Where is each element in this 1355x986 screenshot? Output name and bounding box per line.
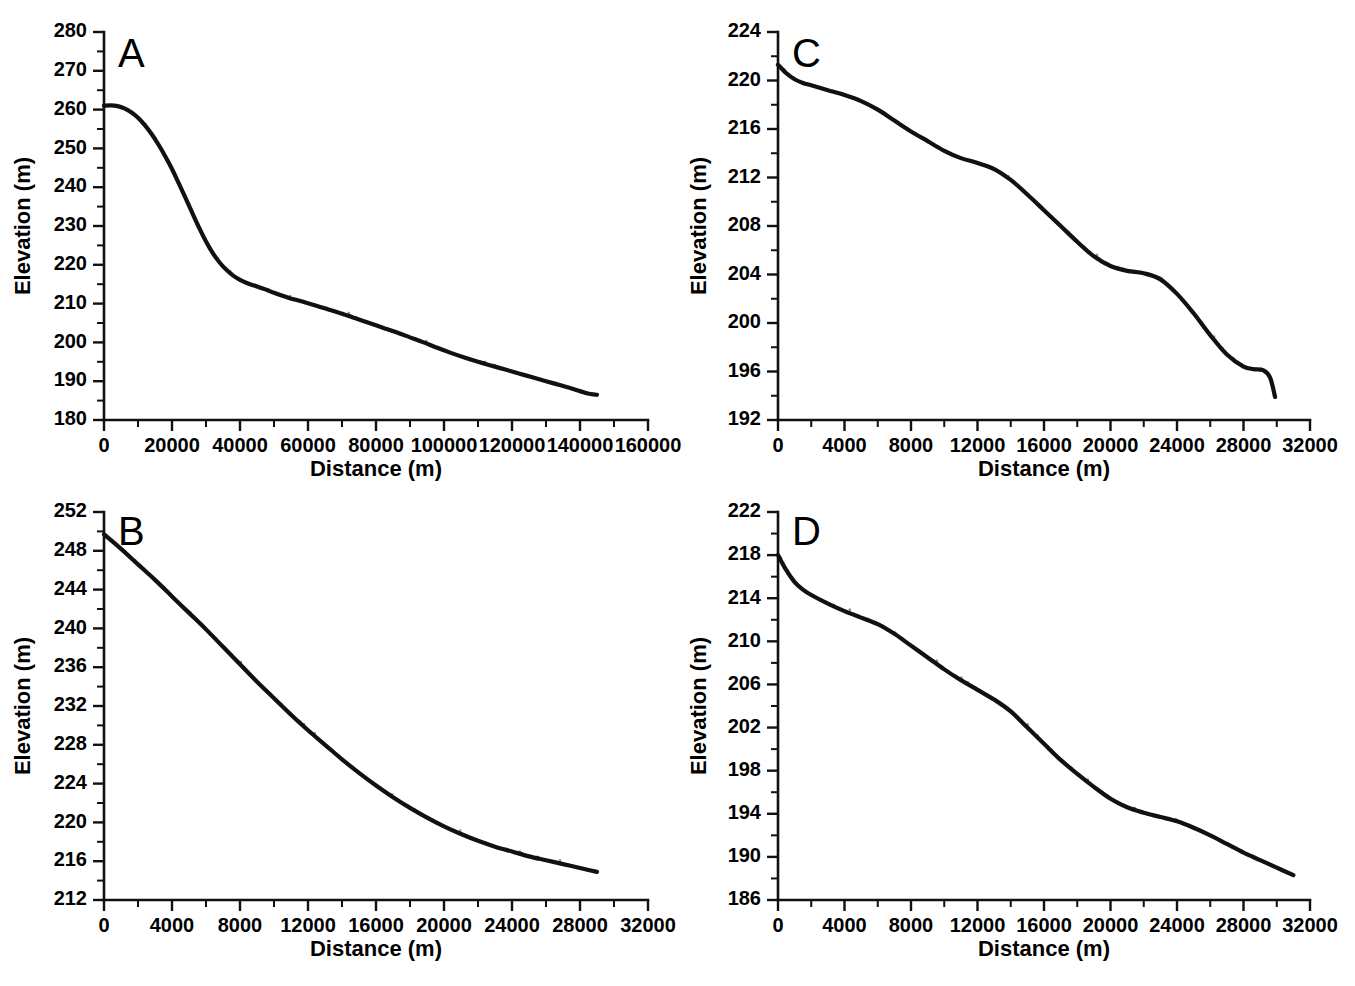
y-tick-label: 250 xyxy=(54,136,87,158)
y-tick-label: 248 xyxy=(54,538,87,560)
y-tick-label: 192 xyxy=(728,407,761,429)
panel-letter: A xyxy=(118,31,145,75)
y-tick-label: 198 xyxy=(728,758,761,780)
x-tick-label: 32000 xyxy=(1282,914,1338,936)
y-axis-c: 192196200204208212216220224 xyxy=(728,19,778,429)
x-tick-label: 40000 xyxy=(212,434,268,456)
panel-d: 1861901941982022062102142182220400080001… xyxy=(676,490,1355,986)
raw-elevation-trace xyxy=(104,105,597,395)
chart-d: 1861901941982022062102142182220400080001… xyxy=(676,490,1355,986)
elevation-profile-line xyxy=(778,555,1293,875)
y-tick-label: 232 xyxy=(54,693,87,715)
chart-c: 1921962002042082122162202240400080001200… xyxy=(676,0,1355,490)
x-tick-label: 4000 xyxy=(150,914,195,936)
y-tick-label: 206 xyxy=(728,672,761,694)
x-tick-label: 12000 xyxy=(950,914,1006,936)
y-tick-label: 236 xyxy=(54,654,87,676)
y-tick-label: 210 xyxy=(728,629,761,651)
y-axis-d: 186190194198202206210214218222 xyxy=(728,499,778,909)
y-tick-label: 240 xyxy=(54,616,87,638)
x-tick-label: 100000 xyxy=(411,434,478,456)
x-tick-label: 32000 xyxy=(1282,434,1338,456)
x-tick-label: 0 xyxy=(98,434,109,456)
x-tick-label: 12000 xyxy=(950,434,1006,456)
x-tick-label: 24000 xyxy=(1149,434,1205,456)
x-tick-label: 140000 xyxy=(547,434,614,456)
x-tick-label: 16000 xyxy=(348,914,404,936)
y-tick-label: 220 xyxy=(728,68,761,90)
y-tick-label: 202 xyxy=(728,715,761,737)
y-axis-title: Elevation (m) xyxy=(10,157,35,295)
panel-b: 2122162202242282322362402442482520400080… xyxy=(0,490,676,986)
x-tick-label: 8000 xyxy=(889,914,934,936)
x-tick-label: 12000 xyxy=(280,914,336,936)
panel-c: 1921962002042082122162202240400080001200… xyxy=(676,0,1355,490)
x-tick-label: 16000 xyxy=(1016,914,1072,936)
y-tick-label: 190 xyxy=(728,844,761,866)
axes-c xyxy=(778,32,1310,420)
x-tick-label: 24000 xyxy=(484,914,540,936)
x-axis-a: 0200004000060000800001000001200001400001… xyxy=(98,420,681,456)
x-tick-label: 60000 xyxy=(280,434,336,456)
y-tick-label: 218 xyxy=(728,542,761,564)
y-tick-label: 180 xyxy=(54,407,87,429)
x-tick-label: 32000 xyxy=(620,914,676,936)
figure-elevation-profiles: 1801902002102202302402502602702800200004… xyxy=(0,0,1355,986)
x-tick-label: 16000 xyxy=(1016,434,1072,456)
x-tick-label: 8000 xyxy=(889,434,934,456)
x-axis-title: Distance (m) xyxy=(310,936,442,961)
x-tick-label: 80000 xyxy=(348,434,404,456)
elevation-profile-line xyxy=(104,534,597,872)
y-tick-label: 220 xyxy=(54,810,87,832)
x-tick-label: 20000 xyxy=(1083,434,1139,456)
y-axis-b: 212216220224228232236240244248252 xyxy=(54,499,104,909)
y-tick-label: 270 xyxy=(54,58,87,80)
y-axis-title: Elevation (m) xyxy=(10,637,35,775)
x-axis-title: Distance (m) xyxy=(978,936,1110,961)
y-tick-label: 216 xyxy=(728,116,761,138)
y-tick-label: 252 xyxy=(54,499,87,521)
x-tick-label: 28000 xyxy=(1216,434,1272,456)
y-tick-label: 196 xyxy=(728,359,761,381)
y-tick-label: 204 xyxy=(728,262,762,284)
y-tick-label: 212 xyxy=(54,887,87,909)
x-tick-label: 0 xyxy=(98,914,109,936)
x-tick-label: 28000 xyxy=(1216,914,1272,936)
raw-elevation-trace xyxy=(778,66,1275,396)
y-tick-label: 208 xyxy=(728,213,761,235)
y-tick-label: 194 xyxy=(728,801,762,823)
x-tick-label: 0 xyxy=(772,914,783,936)
x-tick-label: 4000 xyxy=(822,914,867,936)
x-tick-label: 20000 xyxy=(1083,914,1139,936)
x-tick-label: 8000 xyxy=(218,914,263,936)
y-axis-title: Elevation (m) xyxy=(686,637,711,775)
chart-a: 1801902002102202302402502602702800200004… xyxy=(0,0,676,490)
x-axis-title: Distance (m) xyxy=(978,456,1110,481)
y-tick-label: 280 xyxy=(54,19,87,41)
axes-b xyxy=(104,512,648,900)
axes-d xyxy=(778,512,1310,900)
elevation-profile-line xyxy=(104,105,597,394)
figure-caption-clipped xyxy=(0,970,1355,986)
y-tick-label: 260 xyxy=(54,97,87,119)
y-axis-title: Elevation (m) xyxy=(686,157,711,295)
y-tick-label: 216 xyxy=(54,848,87,870)
raw-elevation-trace xyxy=(104,534,597,872)
y-tick-label: 240 xyxy=(54,174,87,196)
panel-a: 1801902002102202302402502602702800200004… xyxy=(0,0,676,490)
axes-a xyxy=(104,32,648,420)
chart-b: 2122162202242282322362402442482520400080… xyxy=(0,490,676,986)
y-tick-label: 186 xyxy=(728,887,761,909)
raw-elevation-trace xyxy=(778,556,1293,875)
elevation-profile-line xyxy=(778,65,1275,397)
x-tick-label: 0 xyxy=(772,434,783,456)
y-tick-label: 224 xyxy=(728,19,762,41)
y-tick-label: 214 xyxy=(728,586,762,608)
y-tick-label: 210 xyxy=(54,291,87,313)
x-tick-label: 160000 xyxy=(615,434,682,456)
y-tick-label: 200 xyxy=(728,310,761,332)
x-axis-b: 040008000120001600020000240002800032000 xyxy=(98,900,675,936)
x-tick-label: 4000 xyxy=(822,434,867,456)
panel-letter: B xyxy=(118,509,145,553)
y-tick-label: 200 xyxy=(54,330,87,352)
